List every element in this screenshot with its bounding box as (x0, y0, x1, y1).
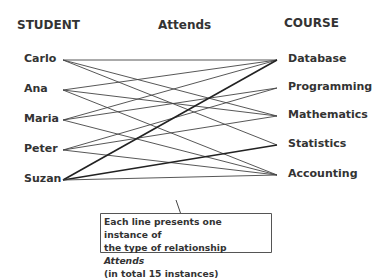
attends-line (63, 88, 277, 120)
attends-line (63, 116, 277, 150)
attends-line (63, 175, 277, 180)
relationship-name: Attends (104, 255, 144, 266)
attends-line (63, 120, 277, 175)
callout-box: Each line presents one instance of the t… (100, 213, 272, 253)
attends-line (63, 88, 277, 150)
callout-line-3: (in total 15 instances) (104, 267, 268, 280)
attends-line (63, 60, 277, 90)
attends-line (63, 60, 277, 116)
attends-line (63, 60, 277, 120)
callout-line-2: the type of relationship Attends (104, 241, 268, 267)
callout-line-1: Each line presents one instance of (104, 215, 268, 241)
